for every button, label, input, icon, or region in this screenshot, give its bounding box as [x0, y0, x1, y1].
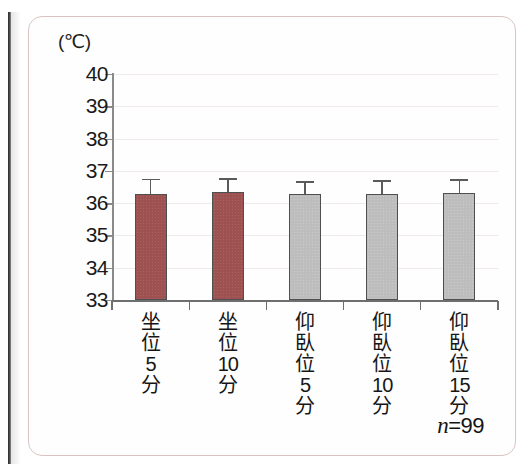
x-axis-label-char: 分	[285, 396, 325, 417]
x-axis-label-char: 位	[131, 333, 171, 354]
error-bar-cap	[219, 178, 237, 180]
error-bar-cap	[296, 181, 314, 183]
x-axis-label-char: 分	[208, 375, 248, 396]
x-axis-tick-mark	[189, 301, 190, 310]
y-axis-tick-label: 36	[56, 191, 108, 215]
y-gridline	[113, 139, 498, 140]
x-axis-label-char: 位	[285, 354, 325, 375]
y-axis-tick-label: 38	[56, 127, 108, 151]
y-gridline	[113, 171, 498, 172]
y-axis-tick-label: 34	[56, 256, 108, 280]
error-bar-cap	[450, 179, 468, 181]
bar	[135, 194, 167, 300]
y-axis-unit-label: (℃)	[58, 30, 91, 53]
x-axis-label-char: 5	[131, 354, 171, 375]
x-axis-label-char: 分	[131, 375, 171, 396]
y-axis-tick-label: 33	[56, 288, 108, 312]
bar-chart: (℃) 3334353637383940 坐位5分坐位10分仰臥位5分仰臥位10…	[0, 0, 530, 469]
x-axis-label-char: 臥	[439, 333, 479, 354]
y-axis-tick-label: 35	[56, 223, 108, 247]
x-axis-category-label: 坐位10分	[208, 312, 248, 396]
bar	[289, 194, 321, 300]
x-axis-label-char: 坐	[208, 312, 248, 333]
x-axis-tick-mark	[497, 301, 498, 310]
bar	[443, 193, 475, 300]
x-axis-label-char: 10	[208, 354, 248, 375]
x-axis-label-char: 位	[439, 354, 479, 375]
y-gridline	[113, 106, 498, 107]
x-axis-label-char: 5	[285, 375, 325, 396]
bar	[212, 192, 244, 300]
x-axis-label-char: 仰	[439, 312, 479, 333]
sample-size-value: 99	[461, 413, 484, 438]
x-axis-tick-mark	[111, 301, 112, 310]
x-axis-category-label: 仰臥位15分	[439, 312, 479, 417]
x-axis-label-char: 坐	[131, 312, 171, 333]
y-axis-tick-label: 40	[56, 62, 108, 86]
error-bar-cap	[142, 179, 160, 181]
x-axis-label-char: 位	[362, 354, 402, 375]
sample-size-annotation: n=99	[437, 413, 484, 439]
bar	[366, 194, 398, 300]
x-axis-tick-mark	[343, 301, 344, 310]
x-axis-label-char: 10	[362, 375, 402, 396]
x-axis-category-label: 坐位5分	[131, 312, 171, 396]
y-axis-tick-label: 39	[56, 94, 108, 118]
sample-size-equals: =	[448, 413, 460, 438]
x-axis-tick-mark	[266, 301, 267, 310]
x-axis-label-char: 分	[362, 396, 402, 417]
sample-size-variable: n	[437, 413, 448, 438]
x-axis-category-label: 仰臥位10分	[362, 312, 402, 417]
y-gridline	[113, 74, 498, 75]
x-axis-label-char: 臥	[362, 333, 402, 354]
x-axis-line	[112, 300, 498, 302]
x-axis-tick-mark	[420, 301, 421, 310]
x-axis-label-char: 15	[439, 375, 479, 396]
error-bar-stem	[459, 179, 461, 193]
y-axis-line	[112, 73, 114, 301]
error-bar-stem	[150, 179, 152, 194]
error-bar-stem	[381, 180, 383, 194]
error-bar-cap	[373, 180, 391, 182]
error-bar-stem	[227, 178, 229, 193]
y-axis-tick-label: 37	[56, 159, 108, 183]
error-bar-stem	[304, 181, 306, 194]
x-axis-category-label: 仰臥位5分	[285, 312, 325, 417]
x-axis-label-char: 仰	[362, 312, 402, 333]
x-axis-label-char: 臥	[285, 333, 325, 354]
x-axis-label-char: 位	[208, 333, 248, 354]
x-axis-label-char: 仰	[285, 312, 325, 333]
